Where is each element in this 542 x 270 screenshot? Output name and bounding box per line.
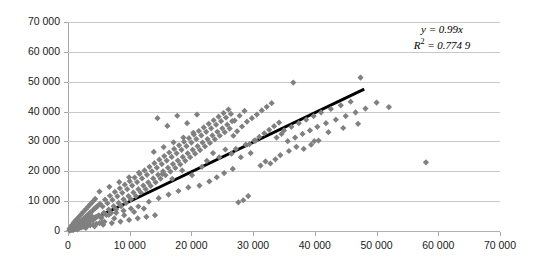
x-tick-mark [315, 232, 316, 236]
data-point [233, 146, 239, 152]
y-tick-mark [64, 171, 68, 172]
data-point [228, 151, 234, 157]
data-point [299, 131, 305, 137]
data-point [96, 188, 102, 194]
data-point [143, 214, 149, 220]
data-point [230, 133, 236, 139]
x-tick-label: 50 000 [361, 240, 393, 251]
y-tick-mark [64, 82, 68, 83]
data-point [199, 164, 205, 170]
data-point [239, 123, 245, 129]
data-point [276, 120, 282, 126]
data-point [272, 156, 278, 162]
data-point [135, 203, 141, 209]
data-point [352, 109, 358, 115]
data-point [164, 123, 170, 129]
data-point [234, 128, 240, 134]
data-point [185, 184, 191, 190]
y-axis-tick-labels: 010 00020 00030 00040 00050 00060 00070 … [0, 0, 60, 270]
y-tick-label: 20 000 [28, 165, 60, 176]
data-point [170, 139, 176, 145]
y-tick-mark [64, 22, 68, 23]
data-point [386, 104, 392, 110]
data-point [269, 100, 275, 106]
data-point [338, 102, 344, 108]
data-point [116, 179, 122, 185]
x-tick-label: 30 000 [237, 240, 269, 251]
data-point [161, 144, 167, 150]
data-point [259, 107, 265, 113]
data-point [180, 134, 186, 140]
data-point [249, 115, 255, 121]
data-point [303, 117, 309, 123]
x-tick-mark [377, 232, 378, 236]
data-point [244, 119, 250, 125]
regression-annotation: y = 0.99x R2 = 0.774 9 [386, 22, 498, 52]
x-tick-label: 10 000 [114, 240, 146, 251]
data-point [296, 120, 302, 126]
y-tick-mark [64, 231, 68, 232]
y-tick-mark [64, 112, 68, 113]
data-point [196, 183, 202, 189]
data-point [357, 74, 363, 80]
x-tick-label: 60 000 [422, 240, 454, 251]
data-point [261, 130, 267, 136]
x-tick-mark [68, 232, 69, 236]
data-point [325, 129, 331, 135]
y-tick-mark [64, 141, 68, 142]
data-point [314, 124, 320, 130]
data-point [307, 127, 313, 133]
equation-label: y = 0.99x [386, 22, 498, 37]
data-point [355, 121, 361, 127]
data-point [373, 100, 379, 106]
data-point [243, 142, 249, 148]
data-point [216, 154, 222, 160]
x-tick-label: 0 [65, 240, 71, 251]
data-point [184, 120, 190, 126]
data-point [210, 150, 216, 156]
plot-area [68, 22, 500, 231]
data-point [222, 146, 228, 152]
data-point [271, 123, 277, 129]
data-point [323, 120, 329, 126]
r-value: = 0.774 9 [424, 39, 470, 51]
gridline [68, 231, 500, 232]
data-point [328, 106, 334, 112]
data-point [333, 117, 339, 123]
y-tick-label: 40 000 [28, 106, 60, 117]
data-point [156, 195, 162, 201]
data-point [301, 146, 307, 152]
y-tick-label: 30 000 [28, 135, 60, 146]
data-point [277, 152, 283, 158]
y-tick-label: 60 000 [28, 46, 60, 57]
data-point [135, 215, 141, 221]
r-squared-label: R2 = 0.774 9 [386, 37, 498, 53]
data-point [362, 105, 368, 111]
y-tick-mark [64, 201, 68, 202]
data-point [245, 193, 251, 199]
x-tick-label: 20 000 [175, 240, 207, 251]
data-point [106, 184, 112, 190]
data-point [152, 212, 158, 218]
data-point [254, 111, 260, 117]
data-point [165, 191, 171, 197]
data-point [286, 148, 292, 154]
y-tick-label: 10 000 [28, 195, 60, 206]
x-tick-label: 40 000 [299, 240, 331, 251]
data-point [318, 109, 324, 115]
data-point [285, 138, 291, 144]
data-point [343, 113, 349, 119]
data-point [241, 108, 247, 114]
y-tick-label: 50 000 [28, 76, 60, 87]
data-point [154, 115, 160, 121]
data-point [288, 124, 294, 130]
data-point [206, 178, 212, 184]
data-point [236, 113, 242, 119]
x-tick-mark [253, 232, 254, 236]
data-point [146, 199, 152, 205]
y-tick-mark [64, 52, 68, 53]
data-points [68, 22, 500, 231]
data-point [175, 188, 181, 194]
data-point [238, 154, 244, 160]
data-point [204, 158, 210, 164]
